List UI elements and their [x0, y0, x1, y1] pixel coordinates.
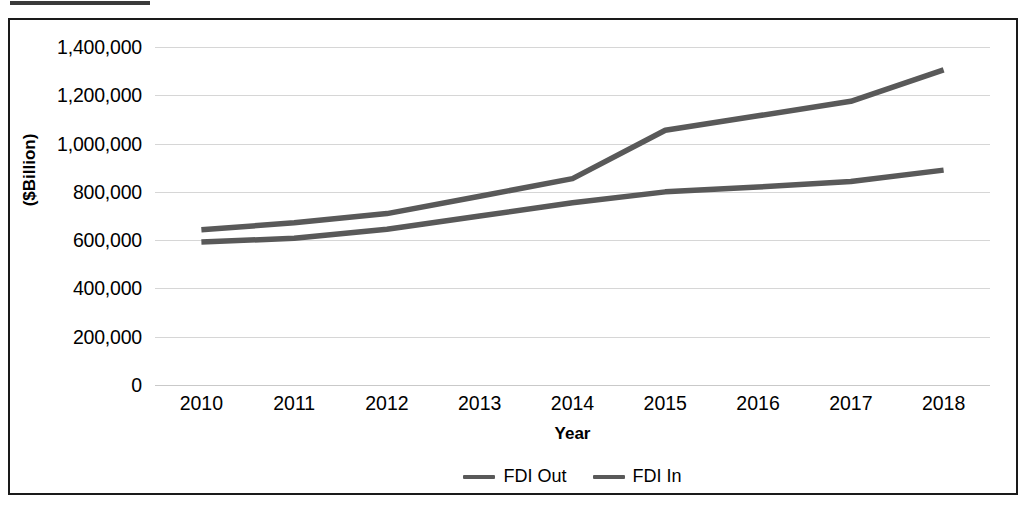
- y-axis-tick-label: 1,200,000: [57, 84, 142, 107]
- x-axis-title: Year: [155, 424, 990, 444]
- x-axis-tick-label: 2012: [365, 392, 408, 415]
- series-lines: [155, 47, 990, 385]
- series-line: [201, 70, 943, 230]
- gridline: [155, 385, 990, 386]
- x-axis-tick-label: 2017: [829, 392, 872, 415]
- legend-label: FDI In: [633, 466, 682, 487]
- y-axis-tick-labels: 0200,000400,000600,000800,0001,000,0001,…: [34, 47, 150, 385]
- x-axis-tick-label: 2013: [458, 392, 501, 415]
- x-axis-tick-label: 2014: [551, 392, 594, 415]
- plot-area: [155, 47, 990, 385]
- legend-label: FDI Out: [503, 466, 566, 487]
- legend-line-icon: [463, 475, 495, 479]
- chart-frame: ($Billion) 0200,000400,000600,000800,000…: [8, 18, 1018, 495]
- legend-line-icon: [593, 475, 625, 479]
- y-axis-tick-label: 600,000: [73, 229, 142, 252]
- y-axis-tick-label: 0: [131, 374, 142, 397]
- y-axis-tick-label: 200,000: [73, 325, 142, 348]
- x-axis-tick-labels: 201020112012201320142015201620172018: [155, 392, 990, 420]
- y-axis-tick-label: 1,400,000: [57, 36, 142, 59]
- y-axis-tick-label: 800,000: [73, 180, 142, 203]
- chart-legend: FDI OutFDI In: [155, 466, 990, 487]
- legend-entry[interactable]: FDI In: [593, 466, 682, 487]
- x-axis-tick-label: 2010: [180, 392, 223, 415]
- clipped-caption-bar: [10, 1, 150, 5]
- legend-entry[interactable]: FDI Out: [463, 466, 566, 487]
- x-axis-tick-label: 2018: [922, 392, 965, 415]
- x-axis-tick-label: 2016: [736, 392, 779, 415]
- x-axis-tick-label: 2011: [273, 392, 315, 415]
- x-axis-tick-label: 2015: [644, 392, 687, 415]
- y-axis-tick-label: 400,000: [73, 277, 142, 300]
- y-axis-tick-label: 1,000,000: [57, 132, 142, 155]
